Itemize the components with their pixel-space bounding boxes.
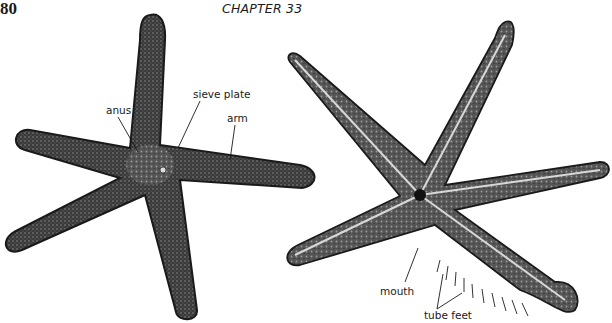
tube-feet-leader-line-2: [437, 293, 462, 309]
mouth-marker: [414, 189, 426, 201]
label-anus: anus: [106, 104, 131, 116]
left-starfish-illustration: [6, 14, 315, 319]
right-starfish-illustration: [287, 21, 609, 316]
starfish-figure: [0, 0, 612, 323]
tube-feet-leader-line-1: [437, 274, 443, 309]
sieve-plate-marker: [160, 167, 166, 173]
label-arm: arm: [227, 112, 248, 124]
label-sieve-plate: sieve plate: [193, 88, 250, 100]
label-mouth: mouth: [380, 285, 414, 297]
sieve-plate-leader-line: [178, 101, 200, 148]
label-tube-feet: tube feet: [424, 309, 472, 321]
mouth-leader-line: [405, 248, 418, 282]
